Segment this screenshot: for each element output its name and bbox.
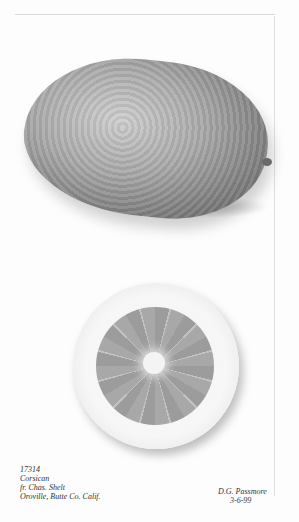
fruit-stem-nub: [262, 158, 272, 166]
artist-signature: D.G. Passmore 3-6-99: [218, 487, 267, 505]
collector: fr. Chas. Shelt: [20, 483, 101, 492]
specimen-inscription: 17314 Corsican fr. Chas. Shelt Oroville,…: [20, 465, 101, 501]
variety-name: Corsican: [20, 474, 101, 483]
paper-edge-right: [274, 16, 275, 496]
citron-core: [143, 352, 165, 374]
location: Oroville, Butte Co. Calif.: [20, 492, 101, 501]
painting-date: 3-6-99: [218, 496, 267, 505]
specimen-number: 17314: [20, 465, 101, 474]
artist-name: D.G. Passmore: [218, 487, 267, 496]
paper-edge-top: [15, 14, 275, 15]
